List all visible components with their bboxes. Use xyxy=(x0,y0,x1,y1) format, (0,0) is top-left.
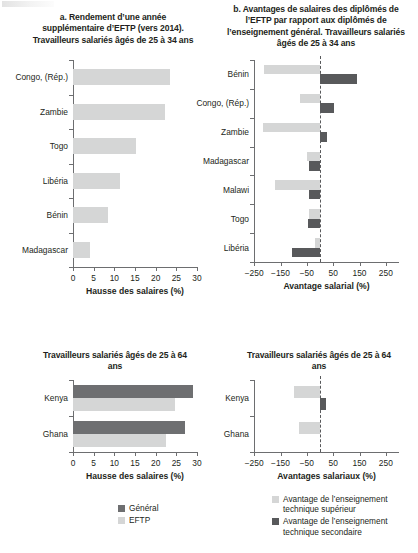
y-axis-category-label: Madagascar xyxy=(187,156,249,166)
legend-item: Général xyxy=(118,503,210,513)
y-axis-line xyxy=(73,60,74,267)
x-axis-tick xyxy=(197,452,198,456)
y-axis-category-label: Ghana xyxy=(187,429,249,439)
x-axis-tick xyxy=(386,262,387,266)
bar xyxy=(320,398,326,410)
x-axis-tick-label: 30 xyxy=(181,458,213,468)
legend-swatch-eftp xyxy=(118,517,125,524)
legend-label: Avantage de l’enseignement technique sup… xyxy=(283,494,418,514)
bar xyxy=(309,209,320,219)
panel-b: b. Avantages de salaires des diplômés de… xyxy=(212,4,418,334)
bar xyxy=(299,422,320,434)
y-axis-category-label: Zambie xyxy=(6,107,68,117)
x-axis-tick xyxy=(307,452,308,456)
y-axis-tick xyxy=(69,95,73,96)
legend-label: Avantage de l’enseignement technique sec… xyxy=(283,516,418,536)
bar xyxy=(73,398,175,411)
y-axis-tick xyxy=(69,380,73,381)
y-axis-tick xyxy=(250,60,254,61)
panel-a: a. Rendement d’une année supplémentaire … xyxy=(10,12,210,332)
y-axis-category-label: Bénin xyxy=(6,210,68,220)
legend-swatch-general xyxy=(118,505,125,512)
bar xyxy=(320,74,357,84)
bar xyxy=(73,173,120,189)
y-axis-tick xyxy=(250,380,254,381)
x-axis-tick xyxy=(73,452,74,456)
x-axis-tick xyxy=(156,267,157,271)
x-axis-tick xyxy=(360,452,361,456)
bar xyxy=(320,103,334,113)
y-axis-tick xyxy=(69,233,73,234)
bar xyxy=(292,248,320,258)
x-axis-tick xyxy=(73,267,74,271)
x-axis-title: Hausse des salaires (%) xyxy=(53,471,217,482)
legend-item: Avantage de l’enseignement technique sec… xyxy=(272,516,418,536)
bar xyxy=(294,386,320,398)
x-axis-tick-label: 30 xyxy=(181,273,213,283)
y-axis-category-label: Ghana xyxy=(6,429,68,439)
y-axis-category-label: Togo xyxy=(187,214,249,224)
y-axis-category-label: Madagascar xyxy=(6,245,68,255)
page-artifact xyxy=(2,1,54,7)
y-axis-tick xyxy=(250,204,254,205)
legend-label: Général xyxy=(129,503,159,513)
bar xyxy=(300,94,320,104)
plot-c: KenyaGhana051015202530Hausse des salaire… xyxy=(10,350,210,498)
bar xyxy=(309,190,320,200)
x-axis-tick xyxy=(254,452,255,456)
bar xyxy=(309,161,320,171)
x-axis-tick xyxy=(254,262,255,266)
x-axis-line xyxy=(254,452,399,453)
bar xyxy=(275,180,320,190)
x-axis-tick xyxy=(281,452,282,456)
x-axis-title: Hausse des salaires (%) xyxy=(53,286,217,297)
x-axis-tick xyxy=(176,267,177,271)
bar xyxy=(73,385,193,398)
y-axis-category-label: Zambie xyxy=(187,127,249,137)
legend-label: EFTP xyxy=(129,515,150,525)
x-axis-tick-label: 250 xyxy=(370,268,402,278)
bar xyxy=(73,69,170,85)
y-axis-category-label: Libéria xyxy=(6,176,68,186)
plot-a: Congo, (Rép.)ZambieTogoLibériaBéninMadag… xyxy=(10,12,210,332)
y-axis-category-label: Malawi xyxy=(187,185,249,195)
zero-reference-line xyxy=(320,376,321,452)
legend-item: EFTP xyxy=(118,515,210,525)
panel-d: Travailleurs salariés âgés de 25 à 64 an… xyxy=(212,350,418,498)
bar xyxy=(73,207,108,223)
y-axis-category-label: Congo, (Rép.) xyxy=(187,98,249,108)
y-axis-tick xyxy=(69,164,73,165)
x-axis-tick xyxy=(360,262,361,266)
y-axis-line xyxy=(254,60,255,262)
bar xyxy=(73,138,136,154)
x-axis-line xyxy=(254,262,399,263)
legend-item: Avantage de l’enseignement technique sup… xyxy=(272,494,418,514)
y-axis-category-label: Bénin xyxy=(187,69,249,79)
x-axis-tick xyxy=(135,452,136,456)
figure-root: a. Rendement d’une année supplémentaire … xyxy=(0,0,418,553)
plot-d: KenyaGhana−250−150−5050150250Avantages s… xyxy=(212,350,418,498)
y-axis-tick xyxy=(69,60,73,61)
x-axis-tick xyxy=(333,262,334,266)
bar xyxy=(73,434,166,447)
x-axis-tick xyxy=(94,452,95,456)
bar xyxy=(73,104,165,120)
x-axis-title: Avantages salariaux (%) xyxy=(234,471,418,482)
y-axis-tick xyxy=(250,416,254,417)
y-axis-category-label: Congo, (Rép.) xyxy=(6,72,68,82)
bar xyxy=(308,219,320,229)
bar xyxy=(320,132,327,142)
zero-reference-line xyxy=(320,56,321,262)
panel-c: Travailleurs salariés âgés de 25 à 64 an… xyxy=(10,350,210,498)
legend-swatch-technique-secondaire xyxy=(272,518,279,525)
bar xyxy=(307,152,320,162)
x-axis-tick xyxy=(114,267,115,271)
y-axis-tick xyxy=(250,147,254,148)
legend-swatch-technique-superieur xyxy=(272,496,279,503)
x-axis-tick xyxy=(156,452,157,456)
plot-b: BéninCongo, (Rép.)ZambieMadagascarMalawi… xyxy=(212,4,418,334)
bar xyxy=(73,421,185,434)
bar xyxy=(264,65,320,75)
y-axis-category-label: Kenya xyxy=(187,393,249,403)
bar xyxy=(73,242,90,258)
